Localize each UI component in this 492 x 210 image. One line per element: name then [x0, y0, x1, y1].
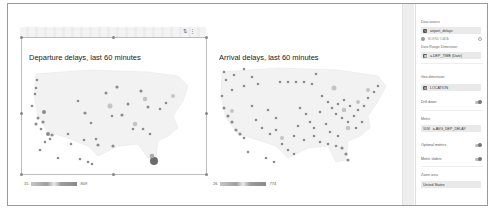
- blend-icon: [421, 37, 425, 41]
- properties-panel: Data source ✎ airport_delays BLEND DATA …: [415, 4, 487, 205]
- arrival-geo-map[interactable]: [218, 66, 388, 166]
- resize-handle[interactable]: [112, 36, 115, 39]
- legend-min: 26: [213, 181, 217, 186]
- aggregation-label: SUM: [423, 127, 430, 131]
- metric-label: Metric: [421, 117, 431, 121]
- departure-color-legend: 15 809: [24, 181, 87, 186]
- resize-handle[interactable]: [205, 36, 208, 39]
- zoom-area-label: Zoom area: [421, 173, 438, 177]
- resize-handle[interactable]: [112, 173, 115, 176]
- legend-max: 774: [269, 181, 276, 186]
- zoom-area-value: United States: [423, 183, 445, 187]
- geo-dimension-value: LOCATION: [430, 86, 448, 90]
- divider: [421, 166, 483, 167]
- geo-dimension-label: Geo dimension: [421, 75, 445, 79]
- drill-down-toggle[interactable]: [475, 101, 481, 104]
- metric-value: a.AVG_DEP_DELAY: [433, 127, 466, 131]
- chart-toolbar-icons: ⇅⋮: [183, 28, 198, 34]
- divider: [421, 63, 483, 64]
- data-source-value: airport_delays: [430, 29, 453, 33]
- arrival-color-legend: 26 774: [213, 181, 276, 186]
- zoom-area-select[interactable]: United States: [421, 181, 481, 188]
- date-range-value: a.DEP_TIME (Date): [430, 54, 462, 58]
- optional-metrics-row: Optional metrics: [421, 143, 481, 147]
- chart-title-arrival: Arrival delays, last 60 minutes: [219, 53, 319, 62]
- legend-gradient: [220, 182, 266, 186]
- data-source-label: Data source: [421, 20, 440, 24]
- blend-data-button[interactable]: BLEND DATA: [421, 37, 449, 41]
- date-range-chip[interactable]: ▦ a.DEP_TIME (Date): [421, 52, 481, 59]
- legend-min: 15: [24, 181, 28, 186]
- legend-max: 809: [80, 181, 87, 186]
- more-vert-icon[interactable]: ⋮: [190, 28, 198, 34]
- date-range-label: Date Range Dimension: [421, 45, 457, 49]
- metric-sliders-toggle[interactable]: [475, 158, 481, 161]
- resize-handle[interactable]: [20, 112, 23, 115]
- metric-chip[interactable]: SUM a.AVG_DEP_DELAY: [421, 125, 481, 132]
- resize-handle[interactable]: [20, 173, 23, 176]
- optional-metrics-toggle[interactable]: [475, 144, 481, 147]
- data-source-chip[interactable]: ✎ airport_delays: [421, 27, 481, 34]
- metric-sliders-row: Metric sliders: [421, 157, 481, 161]
- pencil-icon: ✎: [423, 29, 427, 33]
- divider: [421, 110, 483, 111]
- legend-gradient: [31, 182, 77, 186]
- panel-collapse-strip[interactable]: [402, 4, 414, 205]
- help-icon[interactable]: [478, 37, 482, 41]
- resize-handle[interactable]: [20, 36, 23, 39]
- geo-dimension-chip[interactable]: ◍ LOCATION: [421, 84, 481, 91]
- resize-handle[interactable]: [205, 173, 208, 176]
- departure-geo-map[interactable]: [28, 66, 198, 166]
- calendar-icon: ▦: [423, 54, 427, 58]
- resize-handle[interactable]: [205, 112, 208, 115]
- chart-title-departure: Departure delays, last 60 minutes: [29, 53, 141, 62]
- drill-down-row: Drill down: [421, 100, 481, 104]
- sort-icon[interactable]: ⇅: [183, 28, 190, 34]
- globe-icon: ◍: [423, 86, 427, 90]
